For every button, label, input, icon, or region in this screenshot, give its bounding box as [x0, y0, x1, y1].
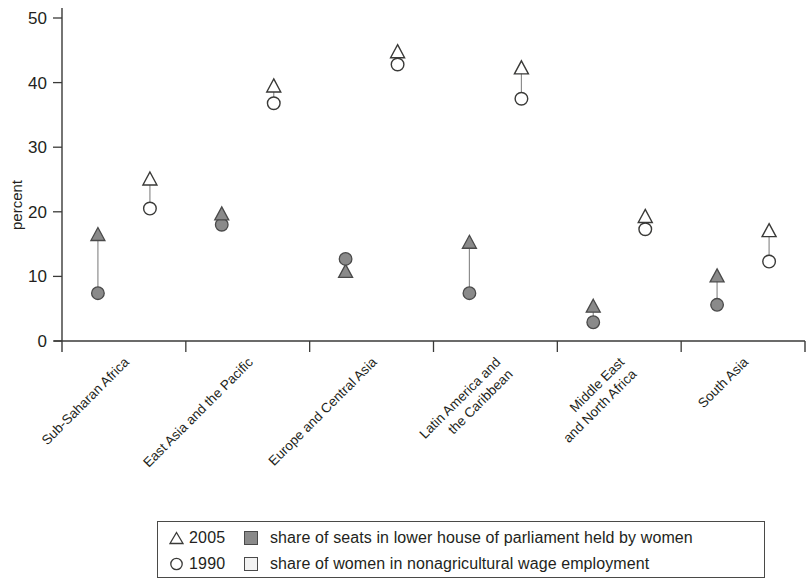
y-axis-title-text: percent	[8, 179, 25, 230]
category-label: Sub-Saharan Africa	[39, 354, 133, 448]
marker-filled-circle-1990	[339, 253, 352, 266]
legend-description: share of seats in lower house of parliam…	[270, 529, 693, 547]
legend-swatch-cell-parliament	[244, 531, 270, 545]
y-tick-label: 0	[38, 332, 47, 351]
marker-open-triangle-2005	[391, 45, 405, 58]
open-triangle-icon	[166, 531, 186, 545]
marker-open-triangle-2005	[514, 61, 528, 74]
marker-open-triangle-2005	[267, 79, 281, 92]
data-markers	[91, 45, 776, 329]
marker-filled-circle-1990	[92, 287, 105, 300]
legend-row: 2005 share of seats in lower house of pa…	[166, 525, 764, 551]
y-axis-title: percent	[8, 179, 25, 230]
y-tick-labels: 01020304050	[28, 9, 47, 351]
y-tick-label: 10	[28, 267, 47, 286]
light-square-swatch-icon	[244, 557, 258, 571]
chart-container: 01020304050 percent Sub-Saharan AfricaEa…	[0, 0, 811, 578]
marker-open-triangle-2005	[638, 209, 652, 222]
category-labels: Sub-Saharan AfricaEast Asia and the Paci…	[39, 354, 752, 470]
marker-filled-circle-1990	[587, 316, 600, 329]
legend-swatch-cell-wage	[244, 557, 270, 571]
category-label-line: East Asia and the Pacific	[140, 354, 256, 470]
y-tick-label: 40	[28, 74, 47, 93]
category-label: South Asia	[695, 354, 752, 411]
marker-open-circle-1990	[639, 223, 652, 236]
marker-open-circle-1990	[267, 97, 280, 110]
marker-filled-triangle-2005	[710, 269, 724, 282]
marker-open-triangle-2005	[762, 224, 776, 237]
marker-filled-triangle-2005	[586, 299, 600, 312]
y-tick-label: 20	[28, 203, 47, 222]
marker-filled-circle-1990	[711, 299, 724, 312]
legend-row: 1990 share of women in nonagricultural w…	[166, 551, 764, 577]
open-circle-icon	[166, 557, 186, 571]
marker-filled-circle-1990	[463, 287, 476, 300]
legend-description: share of women in nonagricultural wage e…	[270, 555, 649, 573]
legend: 2005 share of seats in lower house of pa…	[157, 521, 765, 578]
category-label: Latin America andthe Caribbean	[417, 355, 516, 454]
marker-filled-triangle-2005	[215, 207, 229, 220]
marker-open-triangle-2005	[143, 172, 157, 185]
marker-open-circle-1990	[144, 202, 157, 215]
marker-filled-triangle-2005	[462, 235, 476, 248]
category-label: Europe and Central Asia	[266, 354, 380, 468]
marker-filled-triangle-2005	[339, 264, 353, 277]
marker-filled-triangle-2005	[91, 228, 105, 241]
plot-area: 01020304050 percent Sub-Saharan AfricaEa…	[0, 0, 811, 578]
legend-year-label: 1990	[189, 555, 225, 573]
category-label-line: Europe and Central Asia	[266, 354, 380, 468]
category-label: Middle Eastand North Africa	[548, 354, 639, 445]
category-label: East Asia and the Pacific	[140, 354, 256, 470]
legend-year-cell-1990: 1990	[166, 555, 244, 573]
axes	[54, 8, 805, 352]
category-label-line: South Asia	[695, 354, 752, 411]
y-tick-label: 30	[28, 138, 47, 157]
legend-year-label: 2005	[189, 529, 225, 547]
marker-open-circle-1990	[391, 58, 404, 71]
category-label-line: Sub-Saharan Africa	[39, 354, 133, 448]
legend-year-cell-2005: 2005	[166, 529, 244, 547]
dark-square-swatch-icon	[244, 531, 258, 545]
marker-open-circle-1990	[515, 92, 528, 105]
marker-open-circle-1990	[763, 255, 776, 268]
y-tick-label: 50	[28, 9, 47, 28]
